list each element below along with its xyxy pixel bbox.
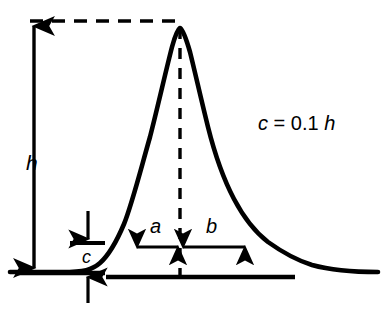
peak-curve (10, 28, 378, 272)
figure-canvas (0, 0, 387, 320)
peak-asymmetry-figure: h c a b c = 0.1 h (0, 0, 387, 320)
label-h: h (26, 152, 38, 173)
equation-c-equals-point-one-h: c = 0.1 h (258, 112, 335, 135)
label-a: a (150, 216, 161, 236)
equation-coefficient: 0.1 (291, 112, 319, 134)
equation-operator: = (268, 112, 291, 134)
label-c: c (82, 248, 91, 266)
equation-rhs: h (324, 112, 335, 134)
label-b: b (206, 216, 217, 236)
equation-lhs: c (258, 112, 268, 134)
